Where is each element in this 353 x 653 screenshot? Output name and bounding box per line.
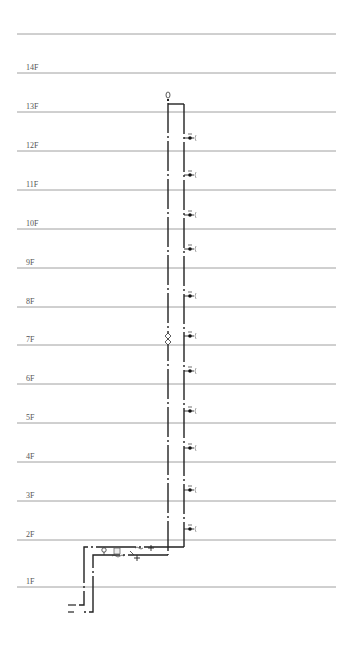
faucet-fixture-icon xyxy=(184,211,196,218)
faucet-fixture-icon xyxy=(184,245,196,252)
air-vent-icon xyxy=(166,92,170,101)
faucet-fixture-icon xyxy=(184,444,196,451)
faucet-fixture-icon xyxy=(184,134,196,141)
floor-label: 13F xyxy=(26,102,39,111)
pump-icon xyxy=(102,548,106,555)
floor-label: 2F xyxy=(26,530,35,539)
faucet-fixture-icon xyxy=(184,367,196,374)
floor-labels: 14F13F12F11F10F9F8F7F6F5F4F3F2F1F xyxy=(26,63,39,586)
faucet-fixture-icon xyxy=(184,332,196,339)
meter-icon xyxy=(114,548,120,554)
floor-label: 5F xyxy=(26,413,35,422)
faucet-fixture-icon xyxy=(184,292,196,299)
floor-lines xyxy=(17,34,336,587)
floor-label: 14F xyxy=(26,63,39,72)
pipes xyxy=(68,92,184,612)
faucet-fixture-icon xyxy=(184,486,196,493)
floor-label: 7F xyxy=(26,335,35,344)
riser-diagram: 14F13F12F11F10F9F8F7F6F5F4F3F2F1F xyxy=(0,0,353,653)
floor-label: 11F xyxy=(26,180,39,189)
floor-label: 9F xyxy=(26,258,35,267)
floor-label: 10F xyxy=(26,219,39,228)
return-main xyxy=(82,555,168,612)
floor-label: 4F xyxy=(26,452,35,461)
floor-label: 12F xyxy=(26,141,39,150)
faucet-fixture-icon xyxy=(184,407,196,414)
fixtures xyxy=(184,134,196,532)
floor-label: 3F xyxy=(26,491,35,500)
floor-label: 6F xyxy=(26,374,35,383)
valve-icon xyxy=(165,333,171,345)
faucet-fixture-icon xyxy=(184,171,196,178)
faucet-fixture-icon xyxy=(184,525,196,532)
floor-label: 8F xyxy=(26,297,35,306)
floor-label: 1F xyxy=(26,577,35,586)
